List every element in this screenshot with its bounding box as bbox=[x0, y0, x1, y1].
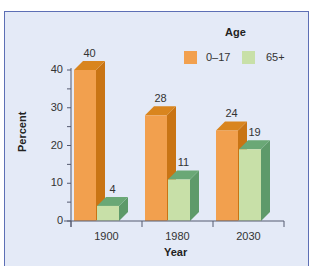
x-axis-title: Year bbox=[164, 246, 187, 258]
value-label: 11 bbox=[169, 156, 199, 168]
value-label: 28 bbox=[146, 92, 176, 104]
y-tick-label: 20 bbox=[43, 139, 63, 151]
x-tick-label: 1900 bbox=[87, 230, 127, 242]
bar-front bbox=[74, 70, 96, 221]
bar-front bbox=[97, 206, 119, 221]
bar-front bbox=[168, 179, 190, 221]
bar-front bbox=[145, 115, 167, 221]
x-tick-label: 1980 bbox=[158, 230, 198, 242]
value-label: 4 bbox=[98, 183, 128, 195]
y-tick-label: 30 bbox=[43, 101, 63, 113]
value-label: 19 bbox=[240, 126, 270, 138]
bar-side bbox=[96, 61, 105, 221]
y-tick-label: 40 bbox=[43, 63, 63, 75]
value-label: 24 bbox=[217, 107, 247, 119]
bar-front bbox=[216, 130, 238, 221]
y-tick-label: 0 bbox=[43, 214, 63, 226]
y-tick-label: 10 bbox=[43, 176, 63, 188]
x-tick-label: 2030 bbox=[229, 230, 269, 242]
bar-front bbox=[239, 149, 261, 221]
value-label: 40 bbox=[75, 47, 105, 59]
bar-side bbox=[261, 140, 270, 221]
